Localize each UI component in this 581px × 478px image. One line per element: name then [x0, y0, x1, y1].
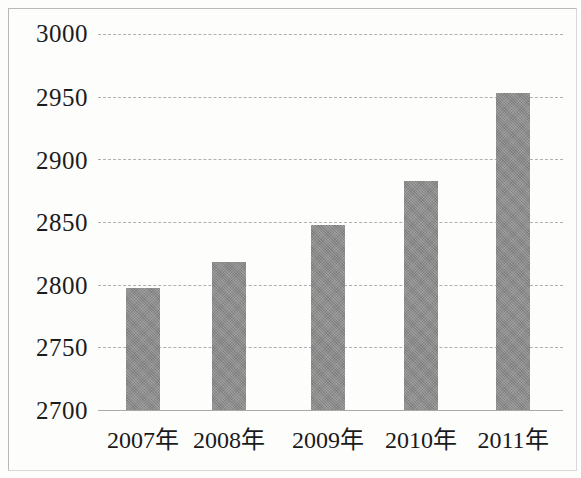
bar-2011[interactable] [496, 93, 530, 410]
y-axis-tick-labels: 3000 2950 2900 2850 2800 2750 2700 [14, 0, 88, 478]
y-tick-label-2750: 2750 [36, 335, 88, 360]
x-axis-category-labels: 2007年 2008年 2009年 2010年 2011年 [98, 424, 563, 464]
plot-area [98, 34, 563, 410]
gridline-2850 [98, 222, 563, 223]
gridline-3000 [98, 34, 563, 35]
gridline-2900 [98, 159, 563, 160]
y-tick-label-2900: 2900 [36, 148, 88, 173]
bar-chart-figure: 3000 2950 2900 2850 2800 2750 2700 2007年… [0, 0, 581, 478]
y-tick-label-3000: 3000 [36, 21, 88, 46]
y-tick-label-2950: 2950 [36, 85, 88, 110]
bar-2008[interactable] [212, 262, 246, 410]
gridline-2950 [98, 97, 563, 98]
bar-2010[interactable] [404, 181, 438, 410]
bar-2007[interactable] [126, 288, 160, 410]
gridline-2700-baseline [98, 410, 563, 411]
x-tick-label-2011: 2011年 [477, 424, 548, 456]
x-tick-label-2010: 2010年 [385, 424, 457, 456]
x-tick-label-2007: 2007年 [107, 424, 179, 456]
x-tick-label-2008: 2008年 [193, 424, 265, 456]
bar-2009[interactable] [311, 225, 345, 410]
x-tick-label-2009: 2009年 [292, 424, 364, 456]
y-tick-label-2700: 2700 [36, 398, 88, 423]
y-tick-label-2850: 2850 [36, 210, 88, 235]
y-tick-label-2800: 2800 [36, 273, 88, 298]
